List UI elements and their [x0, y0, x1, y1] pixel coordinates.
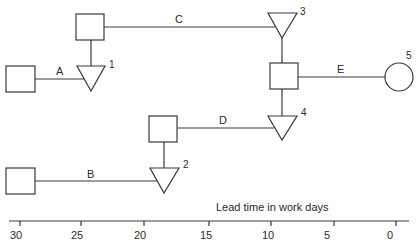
node-2: 2	[150, 159, 189, 193]
activity-e: E	[270, 63, 385, 89]
tick-label: 0	[387, 229, 393, 241]
activity-b: B	[6, 168, 158, 194]
node-5: 5	[385, 50, 413, 91]
activity-d: D	[149, 114, 274, 168]
box-b	[6, 168, 35, 194]
tick-label: 5	[324, 229, 330, 241]
lead-time-diagram: A C 1 3 E 5 D 4	[0, 0, 419, 247]
node-3-label: 3	[300, 6, 306, 17]
tick-label: 15	[200, 229, 212, 241]
axis-label: Lead time in work days	[216, 201, 329, 213]
circle-5	[385, 63, 413, 91]
label-a: A	[56, 65, 64, 77]
time-axis: Lead time in work days 30 25 20 15 10 5 …	[9, 201, 409, 241]
tick-label: 10	[262, 229, 274, 241]
node-1-label: 1	[109, 59, 115, 70]
node-3: 3	[268, 6, 306, 38]
activity-c: C	[76, 13, 275, 66]
box-c	[76, 14, 104, 40]
tick-label: 25	[71, 229, 83, 241]
box-a	[6, 66, 35, 92]
triangle-3	[268, 13, 297, 38]
label-d: D	[219, 114, 227, 126]
box-e	[270, 63, 298, 89]
node-4: 4	[268, 107, 307, 140]
node-1: 1	[77, 59, 115, 91]
tick-label: 30	[10, 229, 22, 241]
activity-a: A	[6, 65, 84, 92]
label-e: E	[337, 63, 344, 75]
label-b: B	[87, 168, 94, 180]
label-c: C	[175, 13, 183, 25]
box-d	[149, 116, 177, 142]
node-5-label: 5	[406, 50, 412, 61]
node-4-label: 4	[301, 107, 307, 118]
tick-label: 20	[134, 229, 146, 241]
node-2-label: 2	[183, 159, 189, 170]
